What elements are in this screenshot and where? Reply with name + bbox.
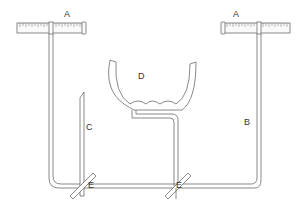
label-d: D: [138, 72, 145, 81]
right-graduated-knob: [221, 22, 290, 34]
label-b: B: [244, 118, 250, 127]
cradle-d: [109, 60, 196, 186]
label-e-right: E: [176, 181, 182, 190]
label-a-left: A: [64, 10, 70, 19]
label-c: C: [86, 123, 93, 132]
label-a-right: A: [233, 10, 239, 19]
rod-c: [80, 92, 84, 196]
apparatus-diagram: [0, 0, 303, 207]
left-graduated-knob: [17, 22, 86, 34]
label-e-left: E: [88, 181, 94, 190]
